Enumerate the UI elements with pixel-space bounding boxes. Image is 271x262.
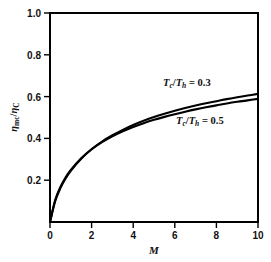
y-tick-label-0.6: 0.6 bbox=[27, 92, 41, 103]
y-tick-label-0.2: 0.2 bbox=[27, 175, 41, 186]
x-tick-label-6: 6 bbox=[172, 230, 178, 241]
x-tick-label-10: 10 bbox=[252, 230, 264, 241]
y-tick-label-0.4: 0.4 bbox=[27, 133, 41, 144]
x-tick-label-2: 2 bbox=[89, 230, 95, 241]
chart-svg: 1.0 0.8 0.6 0.4 0.2 0 2 4 6 8 10 M ηmc/η… bbox=[0, 0, 271, 262]
x-axis-title: M bbox=[148, 244, 160, 256]
y-tick-label-0.8: 0.8 bbox=[27, 50, 41, 61]
x-tick-label-0: 0 bbox=[47, 230, 53, 241]
y-axis-title-text: ηmc/ηC bbox=[8, 102, 21, 131]
chart-figure: 1.0 0.8 0.6 0.4 0.2 0 2 4 6 8 10 M ηmc/η… bbox=[0, 0, 271, 262]
y-tick-label-1.0: 1.0 bbox=[27, 8, 41, 19]
x-tick-label-4: 4 bbox=[130, 230, 136, 241]
x-tick-label-8: 8 bbox=[214, 230, 220, 241]
y-axis-title: ηmc/ηC bbox=[8, 102, 21, 131]
